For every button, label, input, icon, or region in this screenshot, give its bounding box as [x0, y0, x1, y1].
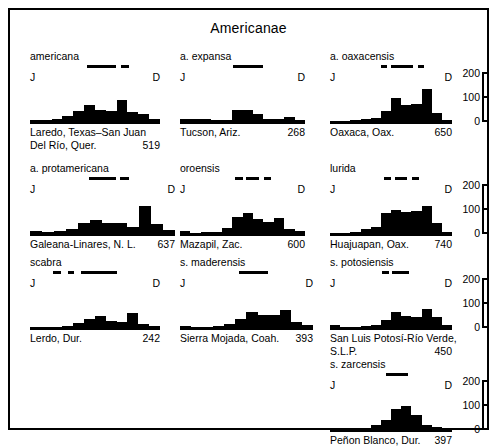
tick-0 — [482, 120, 489, 122]
month-axis: J D — [180, 71, 305, 84]
locality-label: Mazapil, Zac. 600 — [180, 236, 305, 251]
taxon-label: a. oaxacensis — [330, 50, 452, 62]
histogram-bar — [350, 327, 360, 329]
panel-s-zarcensis: s. zarcensis J D Peñon Blanco, Dur. 397 — [330, 358, 452, 447]
histogram-bar — [95, 110, 106, 122]
histogram-plot — [330, 290, 452, 330]
histogram-bar — [95, 316, 106, 328]
histogram-bar — [340, 429, 350, 431]
tick-label-0: 0 — [474, 228, 480, 238]
month-axis: J D — [330, 183, 452, 196]
sample-count: 637 — [157, 238, 175, 251]
axis-end-label: D — [167, 183, 175, 196]
locality-line-1: Laredo, Texas–San Juan — [30, 126, 146, 138]
histogram-bar — [350, 120, 360, 122]
tick-0 — [482, 232, 489, 234]
histogram-bar — [391, 409, 401, 430]
histogram-bar — [213, 326, 224, 328]
axis-end-label: D — [152, 277, 160, 290]
month-axis: J D — [330, 379, 452, 392]
locality-line-2: S.L.P. — [330, 345, 357, 357]
locality-label: Galeana-Linares, N. L. 637 — [30, 236, 175, 251]
tick-label-200: 200 — [462, 68, 480, 78]
axis-start-label: J — [30, 71, 35, 84]
histogram-bar — [138, 324, 149, 328]
tick-label-100: 100 — [462, 400, 480, 410]
tick-label-200: 200 — [462, 180, 480, 190]
histogram-bar — [54, 231, 66, 234]
histogram-bar — [330, 233, 340, 235]
axis-end-label: D — [305, 277, 313, 290]
histogram-bar — [222, 120, 232, 122]
histogram-bar — [361, 326, 371, 328]
panel-scabra: scabra J D Lerdo, Dur. 242 — [30, 256, 160, 345]
histogram-bar — [432, 317, 442, 328]
locality-label: Sierra Mojada, Coah. 393 — [180, 330, 313, 345]
histogram-bar — [201, 119, 211, 122]
histogram-bar — [224, 324, 235, 328]
axis-start-label: J — [330, 277, 335, 290]
locality-line-1: Sierra Mojada, Coah. — [180, 332, 279, 344]
sample-count: 268 — [287, 126, 305, 139]
flowering-period-segment — [53, 271, 61, 274]
histogram-bar — [442, 120, 452, 122]
histogram-bar — [371, 227, 381, 234]
histogram-bar — [180, 231, 190, 234]
histogram-bar — [330, 121, 340, 123]
histogram-bar — [41, 120, 52, 122]
histogram-bar — [391, 210, 401, 234]
histogram-bar — [163, 230, 175, 234]
histogram-bar — [381, 420, 391, 430]
histogram-bar — [442, 429, 452, 431]
histogram-bar — [222, 228, 232, 234]
locality-label: Oaxaca, Oax. 650 — [330, 124, 452, 139]
flowering-period-segment — [381, 65, 387, 68]
locality-label: Laredo, Texas–San Juan Del Río, Quer. 51… — [30, 124, 160, 151]
histogram-bar — [422, 425, 432, 430]
histogram-bars — [180, 196, 305, 234]
tick-label-100: 100 — [462, 92, 480, 102]
histogram-bar — [52, 119, 63, 122]
flowering-period-segment — [87, 65, 116, 68]
histogram-plot — [30, 290, 160, 330]
histogram-bar — [340, 233, 350, 235]
histogram-bar — [78, 223, 90, 234]
locality-line-1: Huajuapan, Oax. — [330, 238, 409, 250]
histogram-bar — [269, 315, 280, 328]
flowering-period-segment — [233, 65, 263, 68]
histogram-bar — [284, 229, 294, 234]
panel-a-expansa: a. expansa J D Tucson, Ariz. 268 — [180, 50, 305, 139]
histogram-bars — [330, 392, 452, 430]
histogram-bar — [258, 315, 269, 328]
axis-end-label: D — [444, 71, 452, 84]
histogram-bar — [115, 223, 127, 234]
flowering-period-segment — [239, 271, 268, 274]
flowering-period-segment — [81, 271, 117, 274]
histogram-bar — [432, 427, 442, 430]
histogram-bar — [73, 111, 84, 122]
tick-label-0: 0 — [474, 424, 480, 434]
month-axis: J D — [30, 71, 160, 84]
sample-count: 242 — [142, 332, 160, 345]
tick-100 — [482, 302, 489, 304]
locality-line-2: Del Río, Quer. — [30, 139, 97, 151]
axis-start-label: J — [180, 277, 185, 290]
sample-count: 519 — [142, 139, 160, 152]
histogram-plot — [180, 84, 305, 124]
axis-end-label: D — [297, 71, 305, 84]
histogram-bar — [52, 327, 63, 329]
flowering-period-segment — [264, 177, 272, 180]
locality-line-1: Mazapil, Zac. — [180, 238, 242, 250]
histogram-bar — [243, 213, 253, 234]
histogram-bar — [246, 312, 257, 328]
histogram-bar — [243, 110, 253, 122]
histogram-bar — [274, 218, 284, 234]
histogram-bar — [291, 322, 302, 328]
locality-label: Peñon Blanco, Dur. 397 — [330, 432, 452, 447]
histogram-bar — [62, 326, 73, 328]
tick-label-200: 200 — [462, 274, 480, 284]
sample-count: 740 — [434, 238, 452, 251]
histogram-bar — [295, 120, 305, 122]
locality-line-1: Galeana-Linares, N. L. — [30, 238, 136, 250]
histogram-bar — [84, 319, 95, 328]
